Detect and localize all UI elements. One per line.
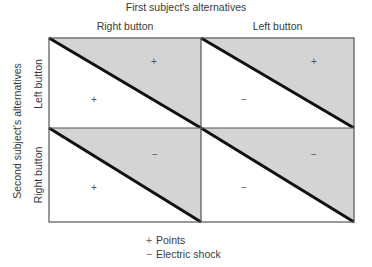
cell-symbol-upper: + <box>151 56 157 67</box>
minus-symbol: − <box>146 248 156 260</box>
legend-label: Points <box>156 234 185 246</box>
legend-item-points: +Points <box>146 234 185 246</box>
cell-symbol-lower: + <box>91 182 97 193</box>
cell-left-left <box>201 38 354 128</box>
cell-symbol-upper: + <box>311 56 317 67</box>
cell-right-left <box>201 128 354 222</box>
cell-symbol-lower: − <box>241 182 247 193</box>
legend-label: Electric shock <box>156 248 221 260</box>
cell-symbol-lower: + <box>91 94 97 105</box>
cell-left-right <box>49 38 201 128</box>
cell-symbol-lower: − <box>241 94 247 105</box>
cell-symbol-upper: − <box>311 149 317 160</box>
cell-symbol-upper: − <box>152 149 158 160</box>
payoff-matrix <box>0 0 372 267</box>
plus-symbol: + <box>146 234 156 246</box>
cell-right-right <box>49 128 201 222</box>
legend-item-electric-shock: −Electric shock <box>146 248 221 260</box>
